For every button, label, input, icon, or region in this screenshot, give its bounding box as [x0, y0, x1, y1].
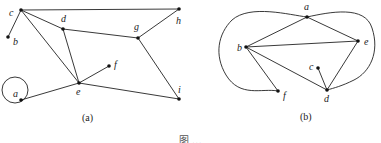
edge-e-i: [79, 83, 179, 99]
edge-b-e: [246, 41, 358, 47]
node-f: [276, 89, 280, 93]
node-e: [77, 81, 81, 85]
node-g: [136, 36, 140, 40]
label-c: c: [9, 7, 14, 18]
node-c: [19, 8, 23, 12]
node-f: [107, 64, 111, 68]
edge-b-d: [246, 47, 327, 90]
figure-caption: 图 …: [0, 132, 381, 143]
edge-e-f: [79, 66, 109, 83]
label-i: i: [178, 84, 181, 95]
edge-b-f: [246, 47, 278, 91]
node-c: [316, 66, 320, 70]
edge-d-g: [63, 29, 138, 38]
edge-d-e: [63, 29, 79, 83]
graph-b: a b c d e f (b): [219, 1, 375, 123]
label-a: a: [304, 1, 309, 12]
label-f: f: [114, 59, 118, 70]
label-c: c: [309, 61, 314, 72]
node-b: [244, 45, 248, 49]
graph-figure: a b c d e f g h i (a) a b c d e f (b): [0, 0, 381, 143]
edge-c-d: [318, 68, 327, 90]
edge-c-d: [21, 10, 63, 29]
label-d: d: [324, 93, 330, 104]
label-g: g: [134, 21, 139, 32]
label-f: f: [283, 90, 287, 101]
label-e: e: [364, 36, 369, 47]
caption-a: (a): [82, 112, 93, 124]
node-i: [177, 97, 181, 101]
label-b: b: [13, 36, 18, 47]
label-h: h: [176, 15, 181, 26]
node-a: [19, 98, 23, 102]
edge-a-d-curved: [307, 12, 375, 90]
node-a: [305, 15, 309, 19]
node-b: [6, 35, 10, 39]
edge-c-e: [21, 10, 79, 83]
graph-a: a b c d e f g h i (a): [2, 7, 181, 124]
edge-g-i: [138, 38, 179, 99]
caption-b: (b): [300, 111, 312, 123]
label-b: b: [237, 42, 242, 53]
edge-g-h: [138, 9, 179, 38]
edge-a-e: [21, 83, 79, 100]
node-e: [356, 39, 360, 43]
edge-a-b: [246, 17, 307, 47]
label-e: e: [76, 86, 81, 97]
edge-c-h: [21, 9, 179, 10]
node-d: [61, 27, 65, 31]
edge-d-e: [327, 41, 358, 90]
label-d: d: [61, 13, 67, 24]
edge-a-e: [307, 17, 358, 41]
node-d: [325, 88, 329, 92]
label-a: a: [13, 88, 18, 99]
node-h: [177, 7, 181, 11]
